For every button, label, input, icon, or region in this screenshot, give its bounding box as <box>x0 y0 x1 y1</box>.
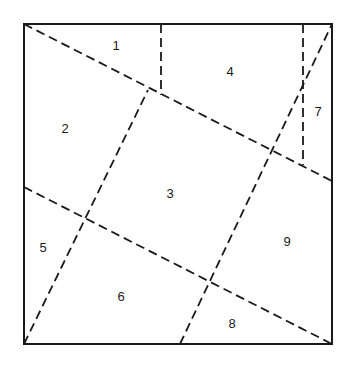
divided-square-diagram: 123456789 <box>0 0 353 369</box>
region-label-8: 8 <box>228 316 235 331</box>
region-label-9: 9 <box>283 234 290 249</box>
region-labels: 123456789 <box>39 38 321 331</box>
dashed-line-diag-top-left-to-right <box>24 24 332 181</box>
dashed-line-diag-left-to-bottom-right <box>24 187 332 344</box>
region-label-3: 3 <box>166 186 173 201</box>
region-label-7: 7 <box>314 104 321 119</box>
region-label-2: 2 <box>61 121 68 136</box>
region-label-5: 5 <box>39 240 46 255</box>
dashed-line-diag-bottom-left-up <box>24 90 148 344</box>
outer-square <box>24 24 332 344</box>
region-label-4: 4 <box>226 64 233 79</box>
region-label-1: 1 <box>112 38 119 53</box>
dashed-line-diag-bottom-to-top-right <box>180 24 332 344</box>
region-label-6: 6 <box>117 289 124 304</box>
dashed-lines <box>24 24 332 344</box>
